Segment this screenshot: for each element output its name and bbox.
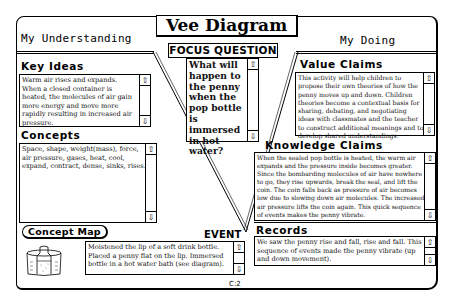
beaker-bottle-icon	[24, 244, 66, 278]
value-claims-scrollbar[interactable]: ⇧ ⇩	[423, 73, 434, 135]
event-label: EVENT	[204, 229, 242, 240]
scroll-down-arrow-icon[interactable]: ⇩	[425, 209, 435, 220]
scroll-down-arrow-icon[interactable]: ⇩	[234, 263, 244, 274]
records-field[interactable]: We saw the penny rise and fall, rise and…	[254, 236, 436, 266]
focus-question-text: What will happen to the penny when the p…	[189, 60, 247, 157]
knowledge-claims-field[interactable]: When the sealed pop bottle is heated, th…	[254, 152, 436, 221]
key-ideas-text: Warm air rises and expands. When a close…	[22, 76, 138, 128]
my-understanding-heading: My Understanding	[21, 32, 132, 45]
left-divider	[17, 51, 154, 54]
scroll-down-arrow-icon[interactable]: ⇩	[424, 124, 434, 135]
event-scrollbar[interactable]: ⇧ ⇩	[233, 242, 244, 274]
records-text: We saw the penny rise and fall, rise and…	[257, 238, 425, 264]
concepts-label: Concepts	[21, 129, 80, 141]
scroll-down-arrow-icon[interactable]: ⇩	[425, 254, 435, 265]
concepts-scrollbar[interactable]: ⇧ ⇩	[145, 144, 156, 222]
focus-question-scrollbar[interactable]: ⇧ ⇩	[247, 59, 258, 141]
key-ideas-field[interactable]: Warm air rises and expands. When a close…	[19, 74, 151, 127]
value-claims-label: Value Claims	[300, 58, 383, 70]
knowledge-claims-text: When the sealed pop bottle is heated, th…	[257, 154, 425, 219]
concepts-text: Space, shape, weight(mass), force, air p…	[22, 145, 146, 171]
value-claims-text: This activity will help children to prop…	[298, 74, 424, 140]
window-title: Vee Diagram	[156, 15, 298, 37]
scroll-up-arrow-icon[interactable]: ⇧	[146, 144, 156, 155]
event-text: Moistened the lip of a soft drink bottle…	[88, 243, 232, 269]
key-ideas-label: Key Ideas	[21, 60, 84, 72]
knowledge-claims-scrollbar[interactable]: ⇧ ⇩	[424, 153, 435, 220]
scroll-up-arrow-icon[interactable]: ⇧	[425, 153, 435, 164]
records-label: Records	[256, 224, 308, 236]
value-claims-field[interactable]: This activity will help children to prop…	[295, 72, 435, 136]
knowledge-claims-label: Knowledge Claims	[265, 139, 383, 151]
scroll-down-arrow-icon[interactable]: ⇩	[146, 211, 156, 222]
focus-question-field[interactable]: What will happen to the penny when the p…	[186, 58, 259, 142]
my-doing-heading: My Doing	[340, 34, 395, 47]
scroll-up-arrow-icon[interactable]: ⇧	[424, 73, 434, 84]
focus-question-label: FOCUS QUESTION	[168, 43, 278, 58]
scroll-down-arrow-icon[interactable]: ⇩	[140, 115, 150, 126]
event-field[interactable]: Moistened the lip of a soft drink bottle…	[85, 241, 245, 275]
scroll-up-arrow-icon[interactable]: ⇧	[248, 59, 258, 70]
page-number: C:2	[229, 280, 241, 288]
concepts-field[interactable]: Space, shape, weight(mass), force, air p…	[19, 143, 157, 223]
scroll-up-arrow-icon[interactable]: ⇧	[234, 242, 244, 253]
scroll-up-arrow-icon[interactable]: ⇧	[140, 75, 150, 86]
scroll-down-arrow-icon[interactable]: ⇩	[248, 130, 258, 141]
key-ideas-scrollbar[interactable]: ⇧ ⇩	[139, 75, 150, 126]
scroll-up-arrow-icon[interactable]: ⇧	[425, 237, 435, 248]
records-scrollbar[interactable]: ⇧ ⇩	[424, 237, 435, 265]
right-divider	[296, 51, 437, 54]
concept-map-button[interactable]: Concept Map	[22, 225, 108, 239]
